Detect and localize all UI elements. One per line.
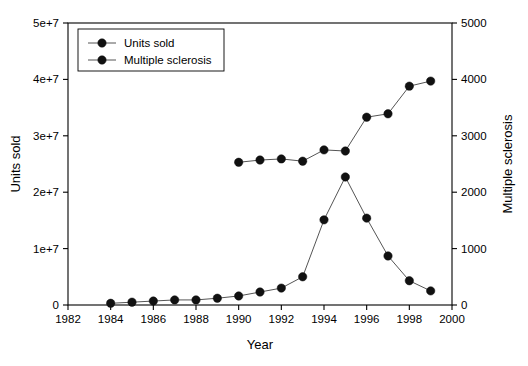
data-point[interactable] [256,288,264,296]
data-point[interactable] [170,296,178,304]
series-line-1 [111,177,431,303]
data-point[interactable] [426,77,434,85]
x-axis-tick-label: 1988 [183,313,209,325]
data-point[interactable] [277,155,285,163]
data-point[interactable] [341,147,349,155]
data-point[interactable] [106,299,114,307]
legend-label-1: Units sold [124,37,175,49]
data-point[interactable] [256,156,264,164]
y-axis-tick-label: 4e+7 [33,73,59,85]
x-axis-tick-label: 1992 [269,313,295,325]
y2-axis-tick-label: 3000 [461,130,487,142]
data-point[interactable] [277,284,285,292]
data-point[interactable] [234,158,242,166]
y2-axis-tick-label: 5000 [461,17,487,29]
data-point[interactable] [405,277,413,285]
data-point[interactable] [384,252,392,260]
x-axis-tick-label: 1996 [354,313,380,325]
line-chart: 01e+72e+73e+74e+75e+70100020003000400050… [0,0,528,366]
legend-label-2: Multiple sclerosis [124,54,212,66]
y2-axis-tick-label: 2000 [461,186,487,198]
data-point[interactable] [362,113,370,121]
x-axis-tick-label: 1990 [226,313,252,325]
data-point[interactable] [149,297,157,305]
x-axis-tick-label: 2000 [439,313,465,325]
x-axis-tick-label: 1982 [55,313,81,325]
data-point[interactable] [384,110,392,118]
y-axis-tick-label: 0 [53,299,59,311]
series-line-2 [239,81,431,162]
x-axis-title: Year [247,337,274,352]
y-axis-title: Units sold [8,135,23,192]
x-axis-tick-label: 1998 [397,313,423,325]
y-axis-tick-label: 2e+7 [33,186,59,198]
y2-axis-title: Multiple sclerosis [500,114,515,213]
data-point[interactable] [213,294,221,302]
chart-container: 01e+72e+73e+74e+75e+70100020003000400050… [0,0,528,366]
data-point[interactable] [341,173,349,181]
data-point[interactable] [320,216,328,224]
data-point[interactable] [128,298,136,306]
data-point[interactable] [192,296,200,304]
y-axis-tick-label: 1e+7 [33,243,59,255]
y-axis-tick-label: 5e+7 [33,17,59,29]
data-point[interactable] [234,292,242,300]
y2-axis-tick-label: 1000 [461,243,487,255]
data-point[interactable] [362,214,370,222]
data-point[interactable] [320,146,328,154]
legend-marker-2 [98,56,106,64]
x-axis-tick-label: 1994 [311,313,337,325]
y2-axis-tick-label: 0 [461,299,467,311]
data-point[interactable] [426,287,434,295]
x-axis-tick-label: 1986 [141,313,167,325]
data-point[interactable] [405,82,413,90]
y-axis-tick-label: 3e+7 [33,130,59,142]
x-axis-tick-label: 1984 [98,313,124,325]
data-point[interactable] [298,273,306,281]
legend-marker-1 [98,39,106,47]
data-point[interactable] [298,157,306,165]
y2-axis-tick-label: 4000 [461,73,487,85]
